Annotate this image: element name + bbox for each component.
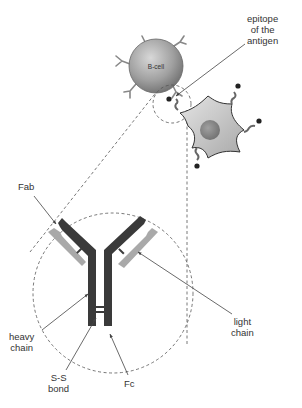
ss-bond-label-line1: S-S xyxy=(48,372,69,383)
heavy-chain-label-line1: heavy xyxy=(9,331,34,342)
antibody-diagram: B-cell xyxy=(0,0,302,408)
epitope-label-line3: antigen xyxy=(247,35,278,46)
heavy-chain-left xyxy=(58,218,96,326)
ss-bond-leader xyxy=(66,318,96,370)
heavy-chain-right xyxy=(104,216,146,326)
fab-label: Fab xyxy=(18,181,34,192)
light-chain-leader xyxy=(138,252,232,314)
heavy-chain xyxy=(58,216,146,326)
epitope-top-right xyxy=(231,83,240,104)
epitope-label-line1: epitope xyxy=(247,13,278,24)
light-chain-label-line2: chain xyxy=(231,327,254,338)
antigen-cell xyxy=(180,96,244,158)
epitope-label-line2: of the xyxy=(247,24,278,35)
b-cell-label: B-cell xyxy=(148,63,165,70)
antigen-nucleus xyxy=(200,120,220,140)
epitope-leader xyxy=(176,44,245,96)
b-cell: B-cell xyxy=(129,39,183,93)
light-chain-label-line1: light xyxy=(231,316,254,327)
epitope-bottom xyxy=(194,148,199,169)
fab-leader xyxy=(34,196,56,224)
ss-bonds xyxy=(96,306,104,313)
leader-lines xyxy=(34,44,245,375)
fc-label: Fc xyxy=(124,378,135,389)
light-chain xyxy=(48,228,158,268)
epitope-right xyxy=(244,118,262,132)
heavy-chain-leader xyxy=(42,294,88,330)
heavy-chain-label-line2: chain xyxy=(9,342,34,353)
antibody xyxy=(48,216,158,326)
heavy-chain-label: heavy chain xyxy=(9,331,34,353)
ss-bond-label: S-S bond xyxy=(48,372,69,394)
fc-leader xyxy=(110,334,128,375)
ss-bond-label-line2: bond xyxy=(48,383,69,394)
epitope-label: epitope of the antigen xyxy=(247,13,278,46)
light-chain-label: light chain xyxy=(231,316,254,338)
